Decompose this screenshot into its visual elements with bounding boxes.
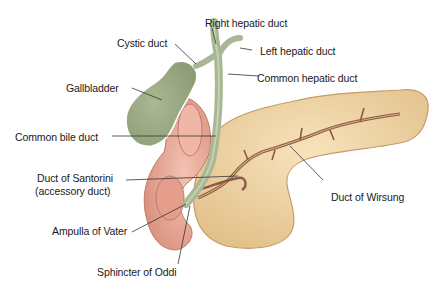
label-left-hepatic-duct: Left hepatic duct — [260, 45, 335, 57]
label-duct-of-wirsung: Duct of Wirsung — [331, 191, 404, 203]
label-gallbladder: Gallbladder — [66, 82, 119, 94]
label-accessory-duct: (accessory duct) — [35, 185, 110, 197]
label-duct-of-santorini: Duct of Santorini — [37, 172, 113, 184]
label-cystic-duct: Cystic duct — [117, 37, 167, 49]
illustration — [0, 0, 438, 288]
label-common-bile-duct: Common bile duct — [15, 131, 98, 143]
label-right-hepatic-duct: Right hepatic duct — [205, 17, 287, 29]
label-ampulla-of-vater: Ampulla of Vater — [52, 225, 127, 237]
anatomy-diagram: Right hepatic duct Cystic duct Left hepa… — [0, 0, 438, 288]
pancreas — [194, 90, 429, 249]
label-common-hepatic-duct: Common hepatic duct — [257, 72, 357, 84]
label-sphincter-of-oddi: Sphincter of Oddi — [97, 266, 176, 278]
